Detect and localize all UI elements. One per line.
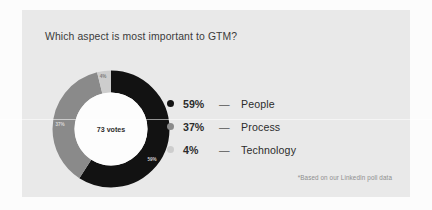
legend-item-process[interactable]: 37% — Process (167, 115, 367, 138)
legend-item-people[interactable]: 59% — People (167, 92, 367, 115)
legend-label-process: Process (241, 121, 280, 133)
legend-item-technology[interactable]: 4% — Technology (167, 138, 367, 161)
legend: 59% — People 37% — Process 4% — Technolo… (167, 92, 367, 161)
legend-label-people: People (241, 98, 275, 110)
legend-color-dot-process (167, 123, 174, 130)
donut-label-people: 59% (147, 157, 156, 162)
legend-value-process: 37% (183, 121, 219, 133)
donut-label-process: 37% (55, 122, 64, 127)
page-title: Which aspect is most important to GTM? (45, 31, 237, 42)
poll-card: Which aspect is most important to GTM? 5… (22, 10, 410, 197)
legend-value-people: 59% (183, 98, 219, 110)
legend-color-dot-people (167, 100, 174, 107)
legend-dash-process: — (219, 121, 241, 133)
donut-label-technology: 4% (100, 74, 107, 79)
legend-color-dot-technology (167, 146, 174, 153)
footnote: *Based on our LinkedIn poll data (298, 174, 392, 181)
donut-center-label: 73 votes (97, 126, 125, 134)
legend-dash-technology: — (219, 144, 241, 156)
legend-dash-people: — (219, 98, 241, 110)
legend-value-technology: 4% (183, 144, 219, 156)
legend-label-technology: Technology (241, 144, 296, 156)
